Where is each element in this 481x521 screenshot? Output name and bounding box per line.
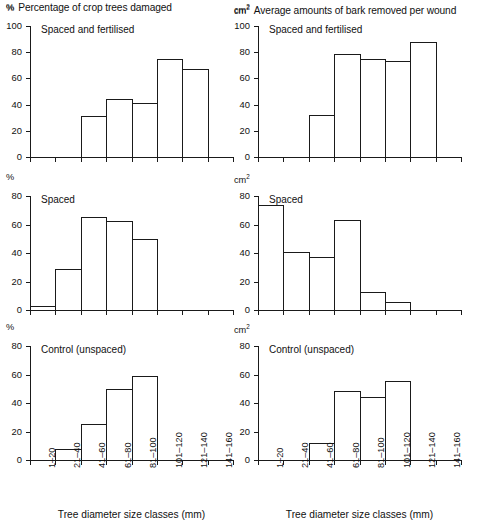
x-axis-tick [208,311,209,315]
x-axis-category-label: 21–40 [300,442,310,468]
x-axis-tick [258,158,259,162]
histogram-bar [182,69,209,158]
x-axis-tick [258,461,259,465]
y-axis-unit: cm2 [234,172,250,185]
x-axis-category-label: 101–120 [402,432,412,468]
histogram-bar [334,220,361,311]
x-axis-category-label: 1–20 [275,448,285,468]
panel-label: Control (unspaced) [269,344,354,355]
y-axis-tick [26,78,30,79]
x-axis-category-label: 121–140 [427,432,437,468]
y-axis-tick-label: 60 [224,220,250,230]
y-axis-unit-text: % [6,322,14,332]
y-axis-tick [254,105,258,106]
histogram-bar [132,239,158,311]
histogram-bar [309,257,335,311]
histogram-bar [132,103,158,158]
x-axis-tick [385,158,386,162]
x-axis-tick [208,158,209,162]
x-axis-category-label: 81–100 [376,437,386,468]
y-axis-tick [254,26,258,27]
x-axis-tick [30,461,31,465]
x-axis-tick [461,158,462,162]
y-axis-tick [254,346,258,347]
y-axis-tick-label: 100 [0,21,22,31]
histogram-bar [30,306,56,311]
y-axis-tick-label: 0 [0,455,22,465]
y-axis-unit-text: cm [234,5,246,15]
panel-label: Spaced [269,194,303,205]
y-axis-tick-label: 0 [0,305,22,315]
x-axis-category-label: 41–60 [325,442,335,468]
y-axis-tick-label: 40 [0,100,22,110]
x-axis-tick [30,158,31,162]
x-axis-tick [334,158,335,162]
x-axis-tick [309,158,310,162]
x-axis-tick [436,158,437,162]
y-axis-unit: % [6,322,14,332]
y-axis-tick-label: 20 [224,277,250,287]
y-axis-tick [26,375,30,376]
x-axis-category-label: 21–40 [72,442,82,468]
y-axis-tick-label: 20 [0,427,22,437]
histogram-bar [258,205,284,311]
panel-label: Control (unspaced) [41,344,126,355]
histogram-bar [283,252,310,311]
x-axis-tick [309,311,310,315]
y-axis-tick-label: 80 [0,341,22,351]
y-axis-tick-label: 60 [224,370,250,380]
y-axis-line [258,346,259,461]
y-axis-unit-text: % [6,2,14,12]
histogram-bar [55,269,82,311]
x-axis-category-label: 41–60 [97,442,107,468]
column-title-left: Percentage of crop trees damaged [18,2,172,13]
y-axis-tick-label: 0 [224,152,250,162]
y-axis-unit: % [6,172,14,182]
histogram-bar [385,61,411,158]
panel-label: Spaced and fertilised [41,24,134,35]
y-axis-tick-label: 40 [0,248,22,258]
x-axis-category-label: 81–100 [148,437,158,468]
x-axis-tick [157,311,158,315]
y-axis-tick-label: 80 [224,47,250,57]
histogram-bar [81,217,107,311]
y-axis-tick-label: 40 [224,248,250,258]
x-axis-tick [132,311,133,315]
y-axis-tick [254,403,258,404]
y-axis-tick [26,253,30,254]
histogram-bar [385,302,411,311]
y-axis-tick-label: 40 [224,100,250,110]
y-axis-tick [254,131,258,132]
x-axis-tick [334,311,335,315]
y-axis-tick-label: 40 [0,398,22,408]
y-axis-tick-label: 60 [0,73,22,83]
x-axis-category-label: 121–140 [199,432,209,468]
x-axis-category-label: 61–80 [123,442,133,468]
panel-label: Spaced and fertilised [269,24,362,35]
x-axis-tick [81,311,82,315]
column-header-right: cm2Average amounts of bark removed per w… [234,2,456,17]
x-axis-title: Tree diameter size classes (mm) [258,509,461,521]
y-axis-tick-label: 100 [224,21,250,31]
x-axis-tick [410,311,411,315]
y-axis-tick-label: 0 [224,455,250,465]
histogram-bar [410,42,437,158]
x-axis-tick [283,311,284,315]
y-axis-unit: cm2 [234,2,250,15]
x-axis-title: Tree diameter size classes (mm) [30,509,233,521]
histogram-bar [157,59,183,158]
y-axis-unit-superscript: 2 [246,323,250,330]
y-axis-line [258,26,259,158]
column-header-left: %Percentage of crop trees damaged [6,2,172,14]
y-axis-unit-text: cm [234,175,246,185]
x-axis-category-label: 141–160 [452,432,462,468]
y-axis-tick-label: 80 [224,191,250,201]
x-axis-tick [461,311,462,315]
y-axis-unit: % [6,2,14,12]
y-axis-unit-superscript: 2 [246,3,250,10]
x-axis-tick [55,158,56,162]
y-axis-line [30,196,31,311]
y-axis-line [30,26,31,158]
y-axis-tick [254,432,258,433]
